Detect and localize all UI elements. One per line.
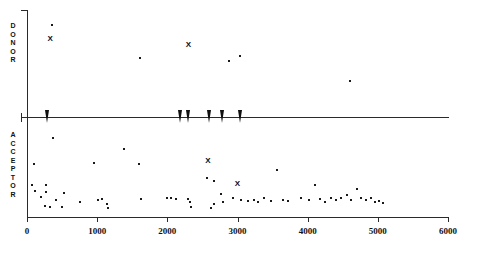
acceptor-data-point	[324, 201, 326, 203]
acceptor-data-point	[63, 192, 65, 194]
acceptor-label-letter: T	[11, 174, 15, 183]
acceptor-data-point	[52, 137, 54, 139]
acceptor-data-point	[340, 197, 342, 199]
acceptor-data-point	[101, 198, 103, 200]
donor-data-point	[139, 57, 141, 59]
acceptor-data-point	[140, 198, 142, 200]
acceptor-data-point	[79, 201, 81, 203]
acceptor-data-point	[123, 148, 125, 150]
x-axis-tick	[378, 217, 379, 222]
donor-label-letter: N	[10, 39, 15, 48]
acceptor-data-point	[175, 198, 177, 200]
acceptor-data-point	[247, 200, 249, 202]
acceptor-data-point	[170, 197, 172, 199]
acceptor-data-point	[287, 200, 289, 202]
acceptor-data-point	[314, 184, 316, 186]
acceptor-data-point	[378, 200, 380, 202]
acceptor-data-point	[360, 197, 362, 199]
acceptor-data-point	[300, 197, 302, 199]
acceptor-data-point	[206, 177, 208, 179]
donor-axis-label: DONOR	[6, 22, 20, 65]
x-axis-tick-label: 5000	[369, 226, 387, 236]
acceptor-data-point	[232, 197, 234, 199]
acceptor-data-point	[330, 197, 332, 199]
center-axis-line	[21, 117, 449, 118]
acceptor-data-point	[166, 197, 168, 199]
down-arrow-marker	[178, 110, 182, 123]
acceptor-data-point	[263, 197, 265, 199]
x-axis-tick	[448, 217, 449, 222]
x-axis-tick	[308, 217, 309, 222]
acceptor-data-point	[97, 199, 99, 201]
acceptor-data-point	[49, 206, 51, 208]
down-arrow-marker	[220, 110, 224, 123]
acceptor-data-point	[189, 201, 191, 203]
acceptor-data-point	[138, 163, 140, 165]
acceptor-data-point	[213, 203, 215, 205]
acceptor-data-point	[253, 199, 255, 201]
donor-data-point	[349, 80, 351, 82]
acceptor-x-marker: X	[235, 180, 240, 188]
acceptor-label-letter: R	[10, 191, 15, 200]
acceptor-label-letter: C	[10, 148, 15, 157]
acceptor-label-letter: A	[10, 131, 15, 140]
x-axis-tick-label: 6000	[439, 226, 457, 236]
acceptor-data-point	[370, 197, 372, 199]
donor-label-letter: R	[10, 56, 15, 65]
acceptor-data-point	[31, 184, 33, 186]
down-arrow-marker	[238, 110, 242, 123]
x-axis-tick-label: 0	[25, 226, 30, 236]
acceptor-data-point	[44, 205, 46, 207]
down-arrow-marker	[45, 110, 49, 123]
donor-label-letter: D	[10, 22, 15, 31]
acceptor-data-point	[346, 194, 348, 196]
acceptor-data-point	[276, 169, 278, 171]
acceptor-data-point	[190, 206, 192, 208]
acceptor-data-point	[45, 191, 47, 193]
acceptor-data-point	[107, 207, 109, 209]
donor-label-letter: O	[10, 31, 15, 40]
x-axis-tick	[167, 217, 168, 222]
acceptor-data-point	[356, 188, 358, 190]
acceptor-data-point	[270, 200, 272, 202]
acceptor-data-point	[106, 203, 108, 205]
x-axis-tick	[238, 217, 239, 222]
acceptor-data-point	[61, 206, 63, 208]
x-axis-tick	[97, 217, 98, 222]
donor-data-point	[51, 24, 53, 26]
x-axis-tick-label: 1000	[88, 226, 106, 236]
acceptor-data-point	[319, 198, 321, 200]
acceptor-data-point	[257, 201, 259, 203]
acceptor-data-point	[365, 199, 367, 201]
x-axis-tick-label: 3000	[229, 226, 247, 236]
donor-data-point	[228, 60, 230, 62]
y-axis-line	[27, 10, 28, 218]
acceptor-data-point	[308, 199, 310, 201]
acceptor-data-point	[45, 184, 47, 186]
x-axis-tick-label: 4000	[299, 226, 317, 236]
acceptor-label-letter: P	[11, 165, 16, 174]
x-axis-tick	[27, 217, 28, 222]
acceptor-label-letter: E	[11, 157, 16, 166]
acceptor-data-point	[210, 207, 212, 209]
acceptor-data-point	[220, 193, 222, 195]
donor-x-marker: X	[47, 35, 52, 43]
acceptor-data-point	[282, 199, 284, 201]
scatter-plot-figure: DONOR ACCEPTOR 0100020003000400050006000…	[0, 0, 477, 254]
down-arrow-marker	[207, 110, 211, 123]
donor-data-point	[239, 55, 241, 57]
acceptor-data-point	[55, 199, 57, 201]
acceptor-data-point	[335, 199, 337, 201]
donor-x-marker: X	[186, 41, 191, 49]
acceptor-data-point	[93, 162, 95, 164]
acceptor-data-point	[222, 201, 224, 203]
x-axis-tick-label: 2000	[158, 226, 176, 236]
acceptor-label-letter: C	[10, 140, 15, 149]
acceptor-data-point	[374, 201, 376, 203]
acceptor-data-point	[350, 199, 352, 201]
acceptor-axis-label: ACCEPTOR	[6, 131, 20, 199]
acceptor-data-point	[40, 196, 42, 198]
acceptor-label-letter: O	[10, 182, 15, 191]
acceptor-data-point	[240, 199, 242, 201]
acceptor-x-marker: X	[205, 157, 210, 165]
